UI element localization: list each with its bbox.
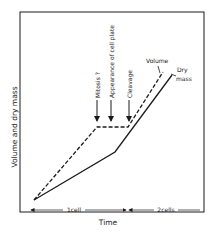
phase-2cells-label: 2cells [157,206,174,213]
volume-pointer [158,66,160,73]
diagram-canvas: Mitosis ? Appearance of cell plate Cleav… [0,0,212,234]
dry-mass-label-line1: Dry [177,66,188,74]
cleavage-label: Cleavage [126,70,134,98]
mitosis-label: Mitosis ? [94,72,101,98]
volume-label: Volume [146,57,169,64]
phase-1cell-label: 1cell [67,206,81,213]
x-axis-label: Time [98,218,118,227]
y-axis-label: Volume and dry mass [10,86,19,167]
cell-plate-label: Appearance of cell plate [108,25,116,98]
dry-mass-curve [34,75,172,200]
dry-mass-label-line2: mass [176,75,192,82]
